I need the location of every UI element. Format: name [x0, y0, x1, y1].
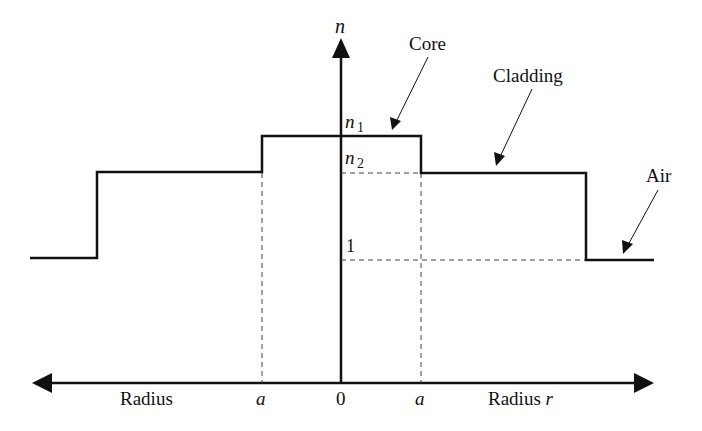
air-arrow-icon — [622, 240, 633, 254]
svg-text:n: n — [345, 111, 355, 132]
a-left-label: a — [256, 388, 266, 409]
origin-label: 0 — [336, 388, 346, 409]
n1-label: n 1 — [345, 111, 364, 135]
core-pointer — [396, 57, 428, 122]
cladding-label: Cladding — [493, 65, 563, 86]
left-arrow-icon — [32, 373, 52, 393]
svg-text:n: n — [345, 147, 355, 168]
radius-right-label: Radius r — [488, 388, 554, 409]
a-right-label: a — [415, 388, 425, 409]
index-profile-diagram: n Core Cladding Air n 1 n 2 1 Radius a 0… — [0, 0, 702, 431]
svg-text:2: 2 — [357, 156, 364, 171]
right-arrow-icon — [634, 373, 654, 393]
cladding-arrow-icon — [494, 152, 505, 166]
vertical-axis — [332, 38, 350, 383]
one-level-label: 1 — [346, 236, 355, 256]
core-label: Core — [409, 33, 446, 54]
core-arrow-icon — [390, 117, 401, 130]
cladding-pointer — [500, 89, 532, 157]
n-axis-label: n — [335, 15, 345, 37]
annotation-arrows — [390, 57, 658, 254]
n2-label: n 2 — [345, 147, 364, 171]
radius-left-label: Radius — [120, 388, 173, 409]
air-pointer — [628, 190, 658, 245]
svg-text:1: 1 — [357, 120, 364, 135]
up-arrow-icon — [332, 38, 350, 58]
guide-lines — [262, 173, 586, 383]
air-label: Air — [646, 165, 672, 186]
